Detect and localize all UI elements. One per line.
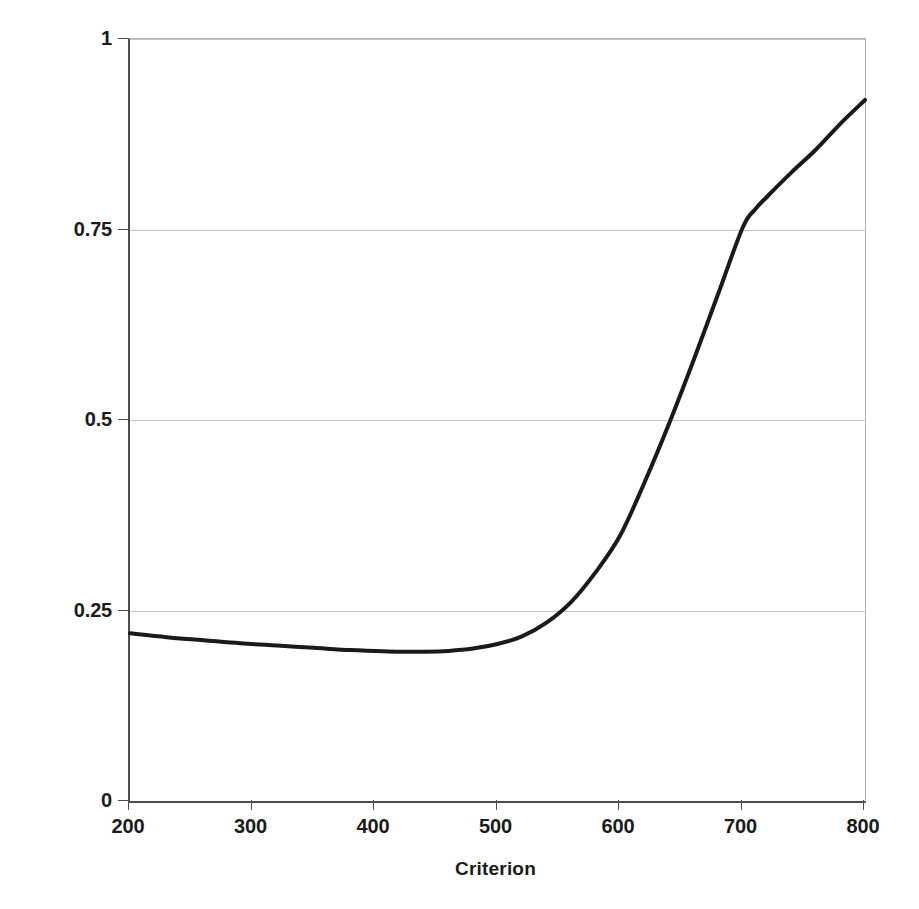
x-tick-700 bbox=[741, 800, 742, 810]
x-tick-label-300: 300 bbox=[206, 816, 296, 836]
x-tick-600 bbox=[618, 800, 619, 810]
y-tick-0.75 bbox=[118, 229, 128, 230]
x-tick-label-700: 700 bbox=[696, 816, 786, 836]
y-tick-label-0: 0 bbox=[0, 790, 112, 810]
y-tick-label-0.75: 0.75 bbox=[0, 219, 112, 239]
y-tick-label-0.25: 0.25 bbox=[0, 600, 112, 620]
x-tick-200 bbox=[128, 800, 129, 810]
x-tick-400 bbox=[373, 800, 374, 810]
series-line-probability-of-correct-response bbox=[130, 100, 865, 652]
x-tick-500 bbox=[496, 800, 497, 810]
x-tick-800 bbox=[863, 800, 864, 810]
x-tick-label-200: 200 bbox=[83, 816, 173, 836]
y-tick-0.5 bbox=[118, 419, 128, 420]
y-tick-label-0.5: 0.5 bbox=[0, 409, 112, 429]
chart-figure: 00.250.50.751 200300400500600700800 Crit… bbox=[0, 0, 919, 909]
plot-area bbox=[128, 38, 866, 803]
x-axis-title: Criterion bbox=[128, 858, 863, 880]
x-tick-label-500: 500 bbox=[451, 816, 541, 836]
y-axis-title: Probability of correct response bbox=[0, 0, 40, 78]
x-tick-label-600: 600 bbox=[573, 816, 663, 836]
y-tick-1 bbox=[118, 38, 128, 39]
y-tick-0 bbox=[118, 800, 128, 801]
y-tick-0.25 bbox=[118, 610, 128, 611]
x-tick-label-400: 400 bbox=[328, 816, 418, 836]
x-tick-300 bbox=[251, 800, 252, 810]
x-tick-label-800: 800 bbox=[818, 816, 908, 836]
data-curve-svg bbox=[130, 39, 865, 801]
